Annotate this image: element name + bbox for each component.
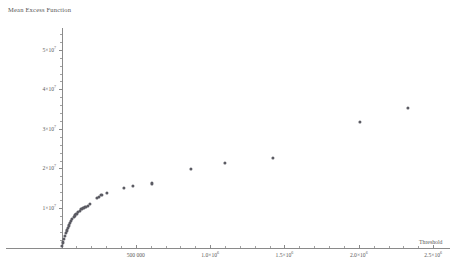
x-tick-minor [121, 246, 122, 248]
data-point [271, 157, 274, 160]
y-tick-minor [60, 58, 62, 59]
x-axis-title: Threshold [419, 239, 443, 245]
data-point [223, 162, 226, 165]
y-tick-mark [59, 208, 62, 209]
data-point [131, 184, 134, 187]
x-tick-minor [76, 246, 77, 248]
y-tick-minor [60, 105, 62, 106]
y-tick-label: 3×107 [42, 126, 56, 132]
x-tick-minor [374, 246, 375, 248]
y-tick-minor [60, 224, 62, 225]
x-tick-mark [210, 245, 211, 248]
x-tick-minor [255, 246, 256, 248]
x-tick-label: 1.0×106 [201, 252, 219, 258]
x-tick-mark [359, 245, 360, 248]
x-tick-minor [106, 246, 107, 248]
x-tick-minor [166, 246, 167, 248]
data-point [105, 191, 108, 194]
y-tick-minor [60, 121, 62, 122]
y-tick-mark [59, 89, 62, 90]
x-tick-label: 2.0×106 [350, 252, 368, 258]
y-tick-minor [60, 232, 62, 233]
y-tick-minor [60, 81, 62, 82]
y-tick-minor [60, 145, 62, 146]
y-tick-minor [60, 74, 62, 75]
x-tick-minor [344, 246, 345, 248]
chart-title: Mean Excess Function [8, 6, 71, 13]
x-tick-label: 500 000 [127, 252, 145, 258]
mean-excess-scatter-plot: Mean Excess Function Threshold 500 0001.… [0, 0, 457, 272]
x-tick-minor [299, 246, 300, 248]
y-tick-mark [59, 129, 62, 130]
data-point [151, 182, 154, 185]
data-point [100, 194, 103, 197]
x-tick-mark [284, 245, 285, 248]
x-axis-line [6, 248, 450, 249]
y-tick-minor [60, 97, 62, 98]
data-point [63, 234, 66, 237]
y-tick-minor [60, 176, 62, 177]
y-tick-minor [60, 192, 62, 193]
y-tick-label: 2×107 [42, 165, 56, 171]
x-tick-mark [136, 245, 137, 248]
data-point [359, 120, 362, 123]
x-tick-mark [433, 245, 434, 248]
y-tick-minor [60, 34, 62, 35]
x-tick-minor [151, 246, 152, 248]
y-tick-minor [60, 216, 62, 217]
x-tick-minor [240, 246, 241, 248]
y-tick-label: 5×107 [42, 47, 56, 53]
x-tick-minor [225, 246, 226, 248]
x-tick-label: 1.5×106 [276, 252, 294, 258]
x-tick-minor [418, 246, 419, 248]
x-tick-minor [314, 246, 315, 248]
x-tick-minor [389, 246, 390, 248]
y-tick-label: 1×107 [42, 205, 56, 211]
data-point [89, 202, 92, 205]
x-tick-label: 2.5×106 [424, 252, 442, 258]
data-point [64, 232, 67, 235]
y-tick-minor [60, 161, 62, 162]
x-tick-minor [403, 246, 404, 248]
y-tick-minor [60, 184, 62, 185]
data-point [406, 107, 409, 110]
data-point [61, 241, 64, 244]
data-point [65, 229, 68, 232]
x-tick-minor [180, 246, 181, 248]
y-tick-mark [59, 50, 62, 51]
x-tick-minor [91, 246, 92, 248]
data-point [62, 238, 65, 241]
x-tick-minor [329, 246, 330, 248]
y-tick-label: 4×107 [42, 86, 56, 92]
y-tick-mark [59, 168, 62, 169]
y-tick-minor [60, 137, 62, 138]
y-tick-minor [60, 200, 62, 201]
y-tick-minor [60, 42, 62, 43]
data-point [122, 187, 125, 190]
y-tick-minor [60, 66, 62, 67]
y-tick-minor [60, 153, 62, 154]
y-tick-minor [60, 113, 62, 114]
x-tick-minor [195, 246, 196, 248]
data-point [189, 168, 192, 171]
x-tick-minor [270, 246, 271, 248]
